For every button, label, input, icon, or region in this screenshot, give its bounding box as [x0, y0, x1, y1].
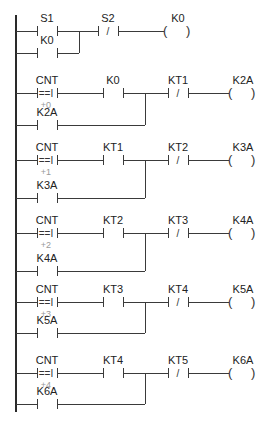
- contact-label: KT2: [103, 214, 123, 226]
- coil-close-paren-icon: ): [186, 23, 190, 38]
- output-coil[interactable]: ()K5A: [228, 283, 255, 309]
- nc-contact[interactable]: KT2/: [168, 141, 188, 166]
- contact-label: K0: [106, 74, 119, 86]
- contact-label: KT2: [168, 141, 188, 153]
- nc-contact[interactable]: S2/: [98, 12, 118, 37]
- output-coil[interactable]: ()K3A: [228, 141, 255, 167]
- nc-slash-icon: /: [177, 88, 180, 99]
- contact-label: CNT: [36, 141, 59, 153]
- nc-contact[interactable]: KT4/: [168, 283, 188, 308]
- contact-label: KT3: [168, 214, 188, 226]
- contact-label: CNT: [36, 354, 59, 366]
- compare-operator: ==I: [39, 155, 53, 166]
- rung-5: CNT==I+3KT3KT4/()K5AK5A: [16, 283, 255, 338]
- output-coil[interactable]: ()K4A: [228, 214, 255, 240]
- compare-operator: ==I: [39, 88, 53, 99]
- no-contact[interactable]: K2A: [37, 106, 58, 130]
- no-contact[interactable]: KT2: [103, 214, 123, 238]
- coil-label: K5A: [233, 283, 254, 295]
- no-contact[interactable]: K3A: [37, 179, 58, 203]
- compare-operator: ==I: [39, 368, 53, 379]
- nc-slash-icon: /: [177, 228, 180, 239]
- no-contact[interactable]: KT3: [103, 283, 123, 307]
- compare-operand: +2: [41, 240, 51, 250]
- rung-1: S1S2/()K0K0: [16, 12, 190, 58]
- coil-close-paren-icon: ): [251, 365, 255, 380]
- contact-label: CNT: [36, 214, 59, 226]
- nc-slash-icon: /: [177, 368, 180, 379]
- contact-label: K5A: [37, 314, 58, 326]
- contact-label: K4A: [37, 252, 58, 264]
- rung-3: CNT==I+1KT1KT2/()K3AK3A: [16, 141, 255, 203]
- coil-label: K0: [171, 12, 184, 24]
- compare-contact[interactable]: CNT==I+0: [36, 74, 59, 110]
- coil-label: K6A: [233, 354, 254, 366]
- no-contact[interactable]: K0: [103, 74, 123, 98]
- contact-label: KT1: [103, 141, 123, 153]
- compare-operator: ==I: [39, 297, 53, 308]
- coil-close-paren-icon: ): [251, 225, 255, 240]
- contact-label: KT1: [168, 74, 188, 86]
- contact-label: K2A: [37, 106, 58, 118]
- no-contact[interactable]: S1: [37, 12, 57, 36]
- contact-label: KT3: [103, 283, 123, 295]
- coil-label: K2A: [233, 74, 254, 86]
- nc-slash-icon: /: [177, 297, 180, 308]
- coil-close-paren-icon: ): [251, 294, 255, 309]
- rung-6: CNT==I+4KT4KT5/()K6AK6A: [16, 354, 255, 409]
- nc-slash-icon: /: [177, 155, 180, 166]
- contact-label: S1: [40, 12, 53, 24]
- coil-label: K4A: [233, 214, 254, 226]
- coil-label: K3A: [233, 141, 254, 153]
- no-contact[interactable]: K0: [37, 34, 57, 58]
- coil-close-paren-icon: ): [251, 152, 255, 167]
- ladder-diagram: S1S2/()K0K0CNT==I+0K0KT1/()K2AK2ACNT==I+…: [0, 0, 268, 421]
- compare-contact[interactable]: CNT==I+1: [36, 141, 59, 177]
- contact-label: CNT: [36, 74, 59, 86]
- no-contact[interactable]: K4A: [37, 252, 58, 276]
- output-coil[interactable]: ()K6A: [228, 354, 255, 380]
- nc-contact[interactable]: KT1/: [168, 74, 188, 99]
- no-contact[interactable]: KT1: [103, 141, 123, 165]
- contact-label: K3A: [37, 179, 58, 191]
- no-contact[interactable]: K6A: [37, 385, 58, 409]
- contact-label: KT4: [168, 283, 188, 295]
- no-contact[interactable]: KT4: [103, 354, 123, 378]
- contact-label: K0: [40, 34, 53, 46]
- contact-label: CNT: [36, 283, 59, 295]
- rung-4: CNT==I+2KT2KT3/()K4AK4A: [16, 214, 255, 276]
- no-contact[interactable]: K5A: [37, 314, 58, 338]
- nc-slash-icon: /: [107, 26, 110, 37]
- compare-contact[interactable]: CNT==I+2: [36, 214, 59, 250]
- rungs-group: S1S2/()K0K0CNT==I+0K0KT1/()K2AK2ACNT==I+…: [16, 12, 255, 409]
- compare-operand: +1: [41, 167, 51, 177]
- nc-contact[interactable]: KT5/: [168, 354, 188, 379]
- contact-label: KT5: [168, 354, 188, 366]
- nc-contact[interactable]: KT3/: [168, 214, 188, 239]
- rung-2: CNT==I+0K0KT1/()K2AK2A: [16, 74, 255, 130]
- contact-label: S2: [101, 12, 114, 24]
- output-coil[interactable]: ()K2A: [228, 74, 255, 100]
- coil-close-paren-icon: ): [251, 85, 255, 100]
- output-coil[interactable]: ()K0: [163, 12, 190, 38]
- contact-label: K6A: [37, 385, 58, 397]
- contact-label: KT4: [103, 354, 123, 366]
- compare-operator: ==I: [39, 228, 53, 239]
